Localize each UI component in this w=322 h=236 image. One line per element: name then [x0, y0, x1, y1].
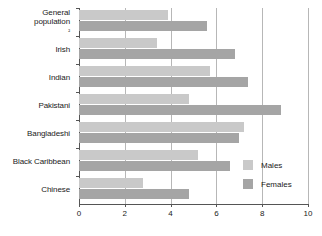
- legend-item: Females: [243, 179, 315, 189]
- x-axis-tick: [171, 204, 172, 207]
- bar-males: [79, 178, 143, 188]
- legend-swatch: [243, 160, 253, 170]
- x-axis-tick: [262, 204, 263, 207]
- bar-females: [79, 105, 281, 115]
- bar-males: [79, 10, 168, 20]
- y-axis-tick: [76, 64, 79, 65]
- legend-swatch: [243, 179, 253, 189]
- x-axis-tick: [79, 204, 80, 207]
- bar-females: [79, 161, 230, 171]
- bar-chart: Generalpopulation ²IrishIndianPakistaniB…: [0, 0, 322, 236]
- bar-females: [79, 49, 235, 59]
- bar-group: [79, 8, 308, 36]
- category-label: Black Caribbean: [0, 148, 74, 176]
- bar-males: [79, 66, 210, 76]
- y-axis-tick: [76, 176, 79, 177]
- chart-legend: MalesFemales: [243, 160, 315, 198]
- x-axis-line: [79, 204, 308, 205]
- legend-label: Females: [261, 180, 292, 189]
- bar-females: [79, 189, 189, 199]
- category-label: Generalpopulation ²: [0, 8, 74, 36]
- x-axis-tick-labels: 0246810: [79, 209, 308, 223]
- category-label: Bangladeshi: [0, 120, 74, 148]
- y-axis-tick: [76, 36, 79, 37]
- bar-group: [79, 92, 308, 120]
- bar-males: [79, 150, 198, 160]
- x-axis-tick-label: 10: [304, 209, 313, 218]
- footnote-marker: ²: [34, 27, 70, 37]
- x-axis-tick-label: 4: [168, 209, 172, 218]
- x-axis-tick-label: 0: [77, 209, 81, 218]
- legend-label: Males: [261, 161, 282, 170]
- bar-males: [79, 38, 157, 48]
- y-axis-tick: [76, 92, 79, 93]
- x-axis-tick-label: 8: [260, 209, 264, 218]
- y-axis-category-labels: Generalpopulation ²IrishIndianPakistaniB…: [0, 8, 74, 204]
- y-axis-tick: [76, 120, 79, 121]
- bar-females: [79, 21, 207, 31]
- x-axis-tick-label: 6: [214, 209, 218, 218]
- x-axis-tick: [125, 204, 126, 207]
- bar-group: [79, 36, 308, 64]
- category-label: Pakistani: [0, 92, 74, 120]
- x-axis-tick-label: 2: [123, 209, 127, 218]
- category-label: Indian: [0, 64, 74, 92]
- bar-group: [79, 120, 308, 148]
- x-axis-tick: [216, 204, 217, 207]
- category-label: Irish: [0, 36, 74, 64]
- bar-group: [79, 64, 308, 92]
- bar-females: [79, 77, 248, 87]
- bar-males: [79, 94, 189, 104]
- legend-item: Males: [243, 160, 315, 170]
- y-axis-tick: [76, 8, 79, 9]
- bar-males: [79, 122, 244, 132]
- y-axis-tick: [76, 148, 79, 149]
- category-label: Chinese: [0, 176, 74, 204]
- x-axis-tick: [308, 204, 309, 207]
- bar-females: [79, 133, 239, 143]
